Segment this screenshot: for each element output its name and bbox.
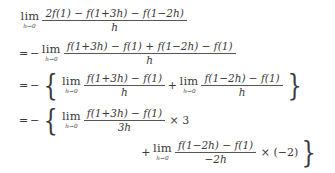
plus-sign: + [167,80,179,91]
close-brace-delimiter: } [287,74,301,96]
fraction-denominator: h [42,20,186,33]
lim-label: lim [153,143,172,155]
lim-label: lim [62,76,81,88]
fraction-numerator: f(1+3h) − f(1) + f(1−2h) − f(1) [64,41,236,53]
lim-subscript: h→0 [65,123,77,129]
multiplier-factor: × (−2) [261,147,299,158]
limit-operator: lim h→0 [42,44,61,62]
limit-operator: lim h→0 [62,111,81,129]
open-brace-delimiter: { [43,74,57,96]
plus-sign: + [140,147,152,158]
lim-subscript: h→0 [45,56,57,62]
fraction-denominator: h [64,53,236,66]
fraction-numerator: f(1−2h) − f(1) [175,140,256,152]
math-derivation-canvas: lim h→0 2f(1) − f(1+3h) − f(1−2h) h = − … [0,0,335,173]
lim-label: lim [21,11,40,23]
limit-operator: lim h→0 [21,11,40,29]
limit-operator-second-term: lim h→0 [180,76,199,94]
fraction-denominator: h [84,85,165,98]
lim-subscript: h→0 [24,23,36,29]
lim-subscript: h→0 [65,88,77,94]
negation-sign: − [29,80,41,91]
fraction: f(1+3h) − f(1) 3h [84,108,165,132]
negation-sign: − [29,48,41,59]
fraction-numerator: f(1+3h) − f(1) [84,73,165,85]
equation-line-2: = − lim h→0 f(1+3h) − f(1) + f(1−2h) − f… [19,41,237,65]
fraction-denominator: −2h [175,152,256,165]
fraction-numerator: f(1−2h) − f(1) [201,73,282,85]
fraction-numerator: 2f(1) − f(1+3h) − f(1−2h) [42,8,186,20]
limit-operator-first-term: lim h→0 [62,76,81,94]
lim-subscript: h→0 [183,88,195,94]
fraction-numerator: f(1+3h) − f(1) [84,108,165,120]
fraction: 2f(1) − f(1+3h) − f(1−2h) h [42,8,186,32]
fraction-second-term: f(1−2h) − f(1) h [201,73,282,97]
equation-line-4: = − { lim h→0 f(1+3h) − f(1) 3h × 3 [19,108,189,132]
lim-subscript: h→0 [156,155,168,161]
close-brace-delimiter: } [301,141,315,163]
lim-label: lim [180,76,199,88]
fraction: f(1−2h) − f(1) −2h [175,140,256,164]
multiplier-factor: × 3 [170,115,190,126]
equals-sign: = [19,48,29,59]
equation-line-1: lim h→0 2f(1) − f(1+3h) − f(1−2h) h [19,8,188,32]
lim-label: lim [42,44,61,56]
equals-sign: = [19,80,29,91]
equation-line-3: = − { lim h→0 f(1+3h) − f(1) h + lim h→0… [19,73,304,97]
open-brace-delimiter: { [43,109,57,131]
fraction-first-term: f(1+3h) − f(1) h [84,73,165,97]
equals-sign: = [19,115,29,126]
limit-operator: lim h→0 [153,143,172,161]
fraction-denominator: 3h [84,120,165,133]
lim-label: lim [62,111,81,123]
negation-sign: − [29,115,41,126]
fraction: f(1+3h) − f(1) + f(1−2h) − f(1) h [64,41,236,65]
equation-line-5: + lim h→0 f(1−2h) − f(1) −2h × (−2) } [140,140,318,164]
fraction-denominator: h [201,85,282,98]
